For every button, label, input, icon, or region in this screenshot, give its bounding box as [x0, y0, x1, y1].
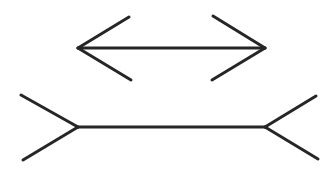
bottom-figure-fins — [21, 95, 318, 160]
top-left-lower-arm — [78, 48, 131, 80]
bottom-left-lower-fin — [23, 127, 78, 160]
muller-lyer-diagram — [0, 0, 334, 171]
top-left-upper-arm — [78, 17, 129, 48]
top-right-upper-arm — [213, 16, 265, 48]
bottom-right-lower-fin — [265, 127, 318, 159]
top-figure-arrowheads — [78, 16, 265, 80]
top-right-lower-arm — [212, 48, 265, 80]
bottom-left-upper-fin — [21, 95, 78, 127]
bottom-right-upper-fin — [265, 96, 316, 127]
